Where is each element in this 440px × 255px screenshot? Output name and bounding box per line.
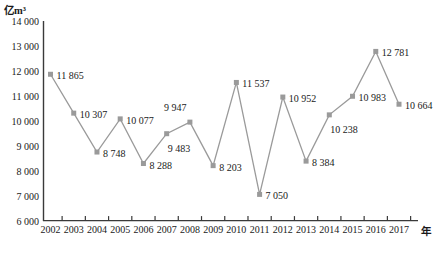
y-axis-tick-label: 11 000	[0, 90, 39, 101]
data-point-label: 10 664	[405, 100, 433, 111]
x-axis-tick-label: 2005	[110, 224, 130, 235]
data-point-marker	[211, 163, 216, 168]
x-axis-tick-label: 2002	[41, 224, 61, 235]
data-point-marker	[234, 80, 239, 85]
x-axis-title: 年	[421, 223, 431, 238]
data-point-label: 9 483	[168, 142, 191, 153]
data-point-label: 10 952	[289, 93, 317, 104]
data-point-label: 10 307	[80, 109, 108, 120]
x-axis-tick-label: 2009	[203, 224, 223, 235]
data-point-marker	[187, 120, 192, 125]
x-axis-tick-label: 2004	[87, 224, 107, 235]
data-point-marker	[280, 95, 285, 100]
data-point-marker	[141, 161, 146, 166]
y-axis-tick-label: 12 000	[0, 65, 39, 76]
x-axis-tick-label: 2014	[319, 224, 339, 235]
data-point-marker	[397, 102, 402, 107]
data-point-label: 9 947	[164, 102, 187, 113]
chart-plot-area	[0, 0, 440, 255]
x-axis-tick-label: 2013	[296, 224, 316, 235]
y-axis-tick-label: 10 000	[0, 115, 39, 126]
y-axis-tick-label: 6 000	[0, 215, 39, 226]
x-axis-tick-label: 2011	[250, 224, 270, 235]
data-point-marker	[48, 72, 53, 77]
data-point-marker	[327, 112, 332, 117]
data-point-label: 8 384	[312, 157, 335, 168]
line-chart: 亿m³ 14 00013 00012 00011 00010 0009 0008…	[0, 0, 440, 255]
data-point-marker	[118, 116, 123, 121]
x-axis-tick-label: 2008	[180, 224, 200, 235]
data-point-label: 11 865	[57, 70, 84, 81]
data-point-label: 8 748	[103, 148, 126, 159]
data-point-marker	[94, 150, 99, 155]
x-axis-tick-label: 2017	[389, 224, 409, 235]
y-axis-tick-label: 8 000	[0, 165, 39, 176]
y-axis-tick-label: 9 000	[0, 140, 39, 151]
x-axis-tick-label: 2012	[273, 224, 293, 235]
x-axis-tick-label: 2010	[226, 224, 246, 235]
x-axis-tick-label: 2003	[64, 224, 84, 235]
data-point-label: 8 288	[149, 159, 172, 170]
y-axis-tick-label: 13 000	[0, 40, 39, 51]
data-point-marker	[373, 49, 378, 54]
data-point-marker	[350, 94, 355, 99]
data-point-label: 10 077	[126, 114, 154, 125]
data-point-label: 11 537	[242, 78, 269, 89]
data-point-label: 12 781	[382, 47, 410, 58]
x-axis-tick-label: 2015	[343, 224, 363, 235]
data-point-label: 10 983	[359, 92, 387, 103]
data-point-label: 7 050	[266, 190, 289, 201]
axes	[43, 21, 418, 221]
data-point-label: 10 238	[330, 123, 358, 134]
x-axis-tick-label: 2016	[366, 224, 386, 235]
data-point-marker	[164, 131, 169, 136]
y-axis-tick-label: 14 000	[0, 16, 39, 27]
y-axis-tick-label: 7 000	[0, 190, 39, 201]
x-axis-tick-label: 2007	[157, 224, 177, 235]
data-point-marker	[304, 159, 309, 164]
data-point-marker	[71, 111, 76, 116]
x-axis-tick-label: 2006	[133, 224, 153, 235]
data-point-label: 8 203	[219, 161, 242, 172]
data-point-marker	[257, 192, 262, 197]
